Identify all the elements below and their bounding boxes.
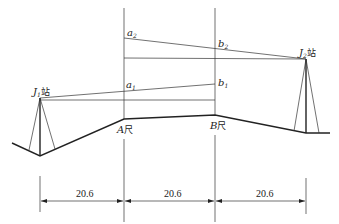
staff-a-label: A尺 <box>116 124 133 135</box>
reading-a1-label: a1 <box>126 79 136 91</box>
reading-b1-label: b1 <box>218 77 228 89</box>
leveling-diagram: J1站 J2站 a2 b2 a1 b1 A尺 B尺 20.6 20.6 20.6 <box>0 0 339 224</box>
diagram-svg: J1站 J2站 a2 b2 a1 b1 A尺 B尺 20.6 20.6 20.6 <box>0 0 339 224</box>
ground-profile <box>12 115 330 156</box>
station-j2-label: J2站 <box>297 47 316 59</box>
dimension-value-3: 20.6 <box>256 188 274 199</box>
reading-a2-label: a2 <box>127 27 137 39</box>
tripod-j2-icon <box>294 59 319 133</box>
reading-b2-label: b2 <box>218 38 228 50</box>
station-j1-label: J1站 <box>31 86 50 98</box>
tripod-j1-icon <box>29 98 55 156</box>
dimension-value-2: 20.6 <box>164 188 182 199</box>
horizontal-line-j2 <box>124 58 306 59</box>
dimension-value-1: 20.6 <box>76 188 94 199</box>
staff-b-label: B尺 <box>209 120 226 131</box>
